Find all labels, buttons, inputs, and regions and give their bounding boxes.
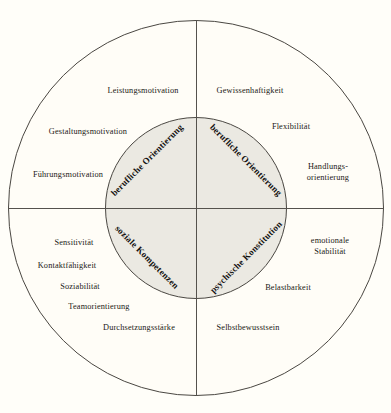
outer-label-belastbarkeit: Belastbarkeit [265,283,311,294]
outer-label-emotionale-stabilitaet: emotionale Stabilität [300,236,361,257]
outer-label-durchsetzungsstaerke: Durchsetzungsstärke [103,323,175,334]
outer-label-gestaltungsmotivation: Gestaltungsmotivation [49,127,127,138]
outer-label-leistungsmotivation: Leistungsmotivation [107,86,178,97]
outer-label-gewissenhaftigkeit: Gewissenhaftigkeit [217,86,284,97]
outer-label-flexibilitaet: Flexibilität [272,122,310,133]
outer-label-selbstbewusstsein: Selbstbewusstsein [217,323,280,334]
outer-label-fuehrungsmotivation: Führungsmotivation [33,170,103,181]
outer-label-teamorientierung: Teamorientierung [68,302,129,313]
outer-label-sensitivitaet: Sensitivität [54,238,93,249]
outer-label-soziabilitaet: Soziabilität [60,282,100,293]
outer-label-handlungsorientierung: Handlungs- orientierung [307,162,349,183]
diagram-canvas: berufliche Orientierung berufliche Orien… [0,0,391,413]
outer-label-kontaktfaehigkeit: Kontaktfähigkeit [38,261,97,272]
horizontal-axis-line [8,208,384,209]
